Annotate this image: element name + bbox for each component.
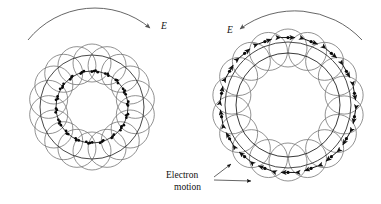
electron-dot bbox=[54, 111, 57, 114]
electron-dot bbox=[286, 171, 289, 174]
electron-dot bbox=[263, 167, 266, 170]
left-field-label: E bbox=[160, 21, 167, 31]
electron-dot bbox=[119, 129, 122, 132]
electron-dot bbox=[99, 141, 102, 144]
electron-dot bbox=[91, 141, 94, 144]
figure-canvas: E E Electron motion bbox=[0, 0, 381, 204]
electron-dot bbox=[71, 75, 74, 78]
electron-dot bbox=[309, 40, 312, 43]
electron-dot bbox=[127, 104, 130, 107]
electron-dot bbox=[65, 130, 68, 133]
electron-dot bbox=[62, 82, 65, 85]
electron-dot bbox=[228, 137, 231, 140]
electron-dot bbox=[125, 116, 128, 119]
electron-dot bbox=[330, 52, 333, 55]
electron-dot bbox=[243, 155, 246, 158]
electron-dot bbox=[353, 92, 356, 95]
electron-dot bbox=[243, 52, 246, 55]
electron-dot bbox=[65, 132, 68, 135]
electron-motion-line1: Electron bbox=[166, 170, 198, 180]
electron-dot bbox=[345, 70, 348, 73]
electron-dot bbox=[85, 140, 88, 143]
electron-dot bbox=[123, 124, 126, 127]
electron-dot bbox=[96, 71, 99, 74]
electron-dot bbox=[107, 74, 110, 77]
electron-dot bbox=[127, 100, 130, 103]
electron-dot bbox=[286, 36, 289, 39]
electron-dot bbox=[330, 155, 333, 158]
electron-motion-line2: motion bbox=[174, 182, 201, 192]
electron-dot bbox=[124, 93, 127, 96]
electron-dot bbox=[345, 137, 348, 140]
electron-dot bbox=[263, 40, 266, 43]
electron-dot bbox=[87, 142, 90, 145]
electron-dot bbox=[104, 72, 107, 75]
electron-dot bbox=[77, 139, 80, 142]
electron-dot bbox=[220, 92, 223, 95]
electron-dot bbox=[353, 115, 356, 118]
electron-dot bbox=[55, 107, 58, 110]
electron-bunching-diagram: E E Electron motion bbox=[0, 0, 381, 204]
electron-dot bbox=[116, 79, 119, 82]
electron-dot bbox=[74, 137, 77, 140]
right-field-label: E bbox=[226, 25, 233, 35]
electron-dot bbox=[56, 97, 59, 100]
electron-dot bbox=[220, 115, 223, 118]
electron-dot bbox=[57, 118, 60, 121]
electron-dot bbox=[56, 95, 59, 98]
electron-dot bbox=[228, 70, 231, 73]
electron-dot bbox=[83, 70, 86, 73]
electron-dot bbox=[117, 82, 120, 85]
electron-dot bbox=[90, 70, 93, 73]
electron-dot bbox=[110, 137, 113, 140]
electron-dot bbox=[94, 69, 97, 72]
electron-dot bbox=[125, 114, 128, 117]
electron-dot bbox=[59, 87, 62, 90]
electron-dot bbox=[309, 167, 312, 170]
